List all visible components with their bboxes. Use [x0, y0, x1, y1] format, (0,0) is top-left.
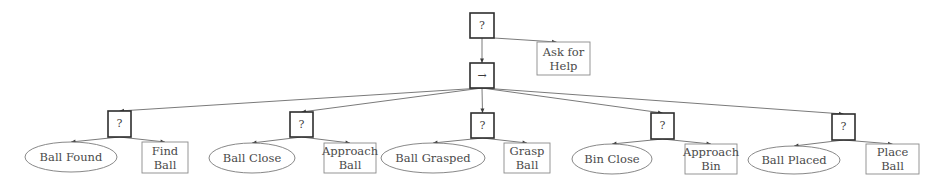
root-fallback-box	[470, 13, 494, 38]
action-box-0	[142, 142, 188, 173]
action-box-2	[504, 143, 550, 173]
fallback-box-4	[832, 114, 855, 140]
edge-sequence-fallback-3	[482, 88, 663, 113]
action-box-1	[324, 143, 376, 173]
condition-ellipse-0	[25, 142, 117, 172]
edge-sequence-fallback-1	[302, 88, 483, 112]
edge-root-ask-help	[494, 38, 557, 42]
edge-fallback-condition-1	[252, 137, 302, 143]
action-box-4	[866, 144, 919, 174]
condition-ellipse-3	[572, 144, 652, 174]
edge-fallback-action-1	[302, 137, 351, 143]
condition-ellipse-2	[381, 143, 485, 173]
nodes-layer	[25, 13, 919, 174]
condition-ellipse-4	[748, 146, 840, 174]
fallback-box-3	[651, 113, 674, 139]
fallback-box-1	[290, 112, 313, 137]
action-box-3	[685, 144, 737, 174]
behavior-tree-diagram	[0, 0, 941, 190]
edge-fallback-condition-4	[794, 140, 844, 146]
edge-sequence-fallback-0	[120, 88, 483, 111]
fallback-box-0	[108, 111, 131, 137]
sequence-box	[470, 63, 494, 88]
condition-ellipse-1	[209, 143, 295, 173]
fallback-box-2	[471, 113, 494, 138]
ask-help-box	[537, 42, 590, 75]
edge-sequence-fallback-4	[482, 88, 844, 114]
